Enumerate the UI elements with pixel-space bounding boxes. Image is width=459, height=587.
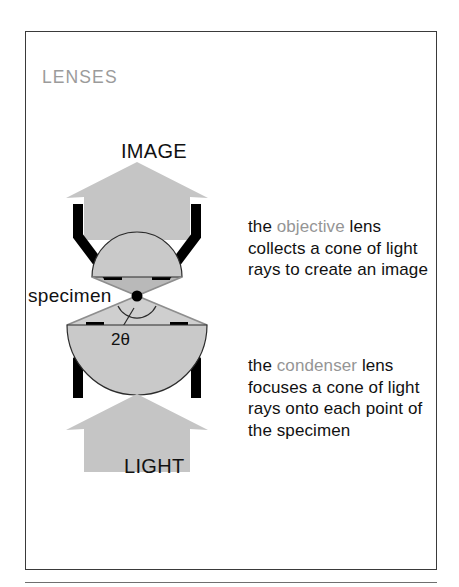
condenser-term: condenser: [277, 356, 357, 375]
specimen-point-dot: [132, 291, 143, 302]
microscope-lens-diagram: [30, 130, 245, 490]
next-panel-top-edge: [25, 582, 437, 583]
condenser-caption: the condenser lens focuses a cone of lig…: [248, 355, 428, 441]
objective-caption-lead: the: [248, 217, 277, 236]
image-arrow-up-icon: [66, 162, 208, 240]
objective-caption: the objective lens collects a cone of li…: [248, 216, 428, 281]
objective-term: objective: [277, 217, 345, 236]
light-arrow-label: LIGHT: [124, 455, 184, 478]
condenser-caption-lead: the: [248, 356, 277, 375]
image-arrow-label: IMAGE: [121, 140, 187, 163]
condenser-lens-semicircle: [67, 325, 207, 395]
section-title: LENSES: [42, 67, 118, 88]
specimen-label: specimen: [28, 285, 112, 307]
aperture-angle-label: 2θ: [111, 330, 130, 350]
